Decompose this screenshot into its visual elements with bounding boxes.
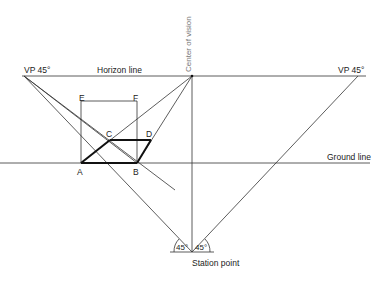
point-f-label: F [133,94,138,103]
edge-ac [81,140,110,163]
point-e-label: E [79,94,85,103]
point-a-label: A [77,168,83,177]
center-of-vision-label: Center of vision [185,16,193,72]
station-point-label: Station point [192,259,239,268]
sightline-right [192,76,358,252]
vp-left-extended [24,76,175,190]
ground-line-label: Ground line [327,153,371,162]
edge-bd [137,140,151,163]
vp-right-label: VP 45° [338,66,364,75]
angle-right-label: 45° [195,244,207,252]
point-c-label: C [106,130,112,139]
point-b-label: B [133,168,139,177]
horizon-line-label: Horizon line [97,66,142,75]
vp-left-label: VP 45° [24,66,50,75]
angle-left-label: 45° [176,244,188,252]
point-d-label: D [146,130,152,139]
